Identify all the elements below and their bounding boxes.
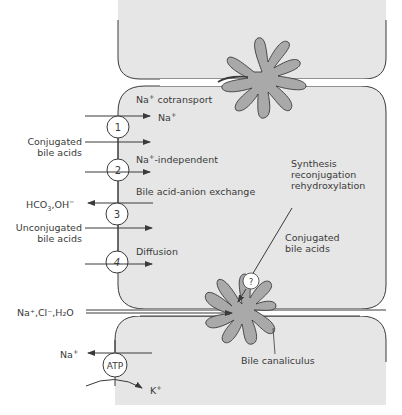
conjugated-bile-acids-right-label: Conjugatedbile acids (285, 232, 340, 254)
k-in-label: K+ (150, 383, 162, 396)
hco3-oh-label: HCO3,OH− (26, 197, 75, 215)
na-cotransport-label: Na+ cotransport (136, 92, 212, 105)
svg-text:ATP: ATP (107, 361, 124, 371)
synthesis-label: Synthesisreconjugationrehydroxylation (291, 158, 365, 191)
svg-text:1: 1 (115, 122, 121, 133)
conjugated-bile-acids-left-label: Conjugatedbile acids (20, 136, 82, 158)
unconjugated-bile-acids-label: Unconjugatedbile acids (10, 222, 82, 244)
svg-text:2: 2 (115, 165, 121, 176)
svg-text:?: ? (249, 278, 253, 287)
upper-hepatocyte (118, 0, 386, 79)
na-out-label: Na+ (60, 347, 78, 360)
diffusion-label: Diffusion (136, 246, 178, 257)
svg-text:4: 4 (114, 257, 120, 268)
bile-acid-anion-exchange-label: Bile acid-anion exchange (136, 186, 255, 197)
na-in-label: Na+ (158, 110, 176, 123)
bile-canaliculus-label: Bile canaliculus (241, 355, 315, 366)
paracellular-label: Na⁺,Cl⁻,H₂O (17, 307, 74, 318)
svg-text:3: 3 (114, 209, 120, 220)
na-independent-label: Na+-independent (136, 152, 218, 165)
